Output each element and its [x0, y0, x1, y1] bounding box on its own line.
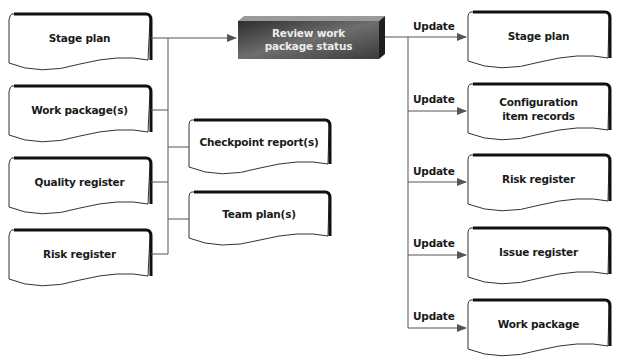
- edge-label-update-issue-register: Update: [413, 237, 455, 249]
- input-label-quality-register: Quality register: [9, 164, 150, 200]
- output-label-line1: Risk register: [502, 172, 575, 186]
- edge-label-update-stage-plan: Update: [413, 20, 455, 32]
- output-label-line1: Issue register: [499, 245, 578, 259]
- input-label-checkpoint-reports: Checkpoint report(s): [189, 126, 329, 158]
- output-label-configuration-item-records: Configuration item records: [468, 90, 609, 128]
- input-label-work-packages: Work package(s): [9, 92, 150, 128]
- right-connectors: [385, 37, 466, 328]
- central-process-label: Review work package status: [238, 21, 379, 59]
- output-label-issue-register: Issue register: [468, 234, 609, 270]
- input-label-stage-plan: Stage plan: [9, 20, 150, 56]
- edge-label-update-configuration: Update: [413, 93, 455, 105]
- input-label-team-plans: Team plan(s): [189, 198, 329, 230]
- output-label-work-package: Work package: [468, 306, 609, 342]
- output-label-stage-plan: Stage plan: [468, 18, 609, 54]
- output-label-line1: Stage plan: [508, 29, 570, 43]
- central-label-line1: Review work: [272, 27, 345, 40]
- output-label-line1: Configuration: [499, 95, 578, 109]
- edge-label-update-work-package: Update: [413, 310, 455, 322]
- output-label-line1: Work package: [498, 317, 579, 331]
- edge-label-update-risk-register: Update: [413, 165, 455, 177]
- input-label-risk-register: Risk register: [9, 236, 150, 272]
- output-label-risk-register: Risk register: [468, 161, 609, 197]
- output-label-line2: item records: [502, 109, 575, 123]
- central-label-line2: package status: [265, 40, 353, 53]
